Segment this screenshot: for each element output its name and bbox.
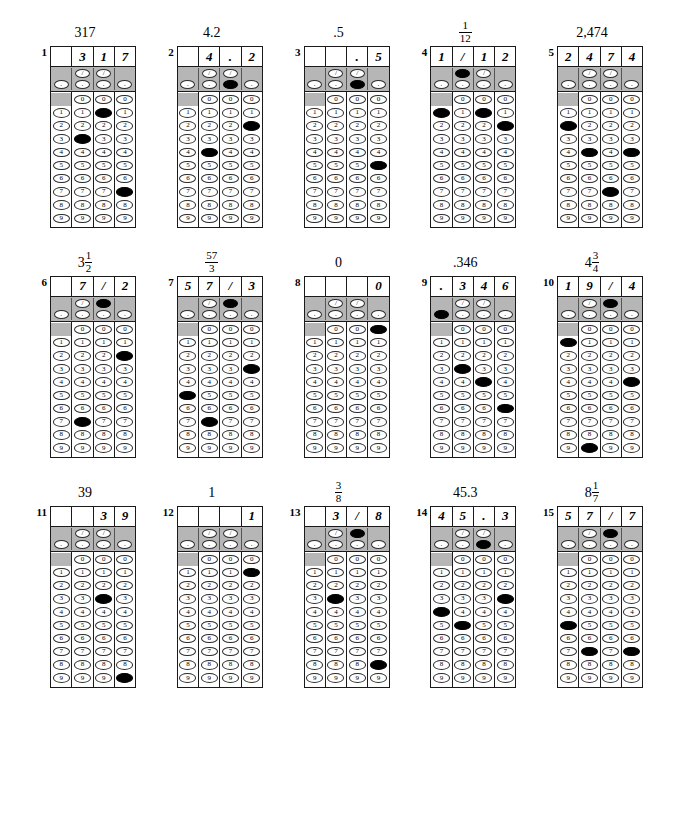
digit-row-8[interactable]: 8 [305,428,325,441]
digit-row-2[interactable]: 2 [94,119,114,132]
slash-bubble-cell-1[interactable] [305,298,325,309]
digit-row-1[interactable]: 1 [199,566,219,579]
slash-bubble-cell-3[interactable]: / [219,68,240,79]
digit-row-7[interactable]: 7 [242,645,262,658]
digit-row-5[interactable]: 5 [579,159,599,172]
digit-row-9[interactable]: 9 [453,442,473,455]
decimal-bubble-cell-4[interactable]: . [494,79,515,90]
slash-bubble-cell-1[interactable] [178,528,198,539]
written-answer-box-1[interactable]: 5 [558,507,578,526]
written-answer-box-4[interactable]: 7 [114,47,135,66]
written-answer-box-4[interactable]: 4 [621,47,642,66]
decimal-bubble-cell-4[interactable]: . [621,309,642,320]
digit-row-5[interactable]: 5 [474,389,494,402]
digit-row-1[interactable]: 1 [178,336,198,349]
digit-row-2[interactable]: 2 [220,349,240,362]
digit-row-8[interactable]: 8 [72,199,92,212]
digit-row-2[interactable]: 2 [453,349,473,362]
digit-row-8[interactable]: 8 [474,199,494,212]
written-answer-box-4[interactable]: 2 [241,47,262,66]
digit-row-9[interactable]: 9 [178,671,198,684]
digit-row-8[interactable]: 8 [220,658,240,671]
digit-row-0[interactable]: 0 [199,93,219,106]
digit-row-6[interactable]: 6 [368,172,388,185]
digit-row-4[interactable]: 4 [347,606,367,619]
digit-row-9[interactable]: 9 [368,442,388,455]
digit-row-7[interactable]: 7 [178,415,198,428]
digit-row-6[interactable]: 6 [72,172,92,185]
decimal-bubble-cell-2[interactable]: . [452,309,473,320]
digit-row-9[interactable]: 9 [242,442,262,455]
digit-row-0[interactable]: 0 [622,93,642,106]
digit-row-9[interactable]: 9 [115,212,135,225]
digit-row-8[interactable]: 8 [368,428,388,441]
written-answer-box-2[interactable] [71,507,92,526]
digit-row-1[interactable]: 1 [453,566,473,579]
digit-row-5[interactable]: 5 [579,619,599,632]
digit-row-6[interactable]: 6 [601,402,621,415]
digit-row-2[interactable]: 2 [326,579,346,592]
digit-row-4[interactable] [622,146,642,159]
digit-row-7[interactable]: 7 [220,415,240,428]
written-answer-box-1[interactable] [305,277,325,296]
digit-row-3[interactable]: 3 [51,592,71,605]
digit-row-6[interactable]: 6 [305,632,325,645]
digit-row-5[interactable] [178,389,198,402]
decimal-bubble-cell-4[interactable]: . [621,79,642,90]
digit-row-6[interactable]: 6 [431,402,451,415]
digit-row-5[interactable]: 5 [220,619,240,632]
digit-row-4[interactable]: 4 [431,146,451,159]
digit-row-5[interactable]: 5 [115,619,135,632]
digit-row-0[interactable]: 0 [220,553,240,566]
digit-row-9[interactable]: 9 [51,212,71,225]
digit-row-2[interactable]: 2 [220,119,240,132]
decimal-bubble-cell-1[interactable]: . [178,79,198,90]
digit-row-0[interactable]: 0 [579,323,599,336]
digit-row-9[interactable]: 9 [558,212,578,225]
digit-row-4[interactable]: 4 [347,376,367,389]
digit-row-6[interactable]: 6 [453,402,473,415]
slash-bubble-cell-1[interactable] [51,528,71,539]
digit-row-5[interactable]: 5 [115,389,135,402]
decimal-bubble-cell-3[interactable] [473,539,494,550]
decimal-bubble-cell-3[interactable]: . [219,309,240,320]
slash-bubble-cell-1[interactable] [558,68,578,79]
digit-row-9[interactable]: 9 [51,442,71,455]
digit-row-6[interactable]: 6 [220,632,240,645]
digit-row-2[interactable]: 2 [220,579,240,592]
digit-row-6[interactable]: 6 [558,632,578,645]
digit-row-7[interactable]: 7 [474,185,494,198]
digit-row-8[interactable]: 8 [453,658,473,671]
digit-row-5[interactable] [453,619,473,632]
digit-row-8[interactable]: 8 [347,428,367,441]
digit-row-1[interactable]: 1 [453,106,473,119]
decimal-bubble-cell-4[interactable]: . [241,309,262,320]
digit-row-7[interactable]: 7 [558,185,578,198]
digit-row-0[interactable]: 0 [199,323,219,336]
written-answer-box-2[interactable]: 4 [198,47,219,66]
digit-row-2[interactable]: 2 [115,119,135,132]
digit-row-4[interactable]: 4 [220,146,240,159]
slash-bubble-cell-4[interactable] [114,298,135,309]
digit-row-3[interactable]: 3 [622,133,642,146]
digit-row-2[interactable]: 2 [199,349,219,362]
digit-row-0[interactable]: 0 [72,323,92,336]
written-answer-box-3[interactable]: 4 [473,277,494,296]
digit-row-6[interactable]: 6 [579,402,599,415]
digit-row-8[interactable]: 8 [579,428,599,441]
written-answer-box-3[interactable] [346,277,367,296]
digit-row-0[interactable]: 0 [115,553,135,566]
digit-row-3[interactable]: 3 [326,133,346,146]
digit-row-3[interactable]: 3 [305,362,325,375]
digit-row-8[interactable]: 8 [495,199,515,212]
slash-bubble-cell-1[interactable] [51,68,71,79]
digit-row-3[interactable]: 3 [305,133,325,146]
digit-row-6[interactable]: 6 [347,632,367,645]
digit-row-2[interactable]: 2 [51,349,71,362]
digit-row-7[interactable]: 7 [94,645,114,658]
digit-row-1[interactable]: 1 [601,336,621,349]
digit-row-5[interactable]: 5 [347,389,367,402]
digit-row-1[interactable]: 1 [178,106,198,119]
decimal-bubble-cell-4[interactable]: . [621,539,642,550]
digit-row-8[interactable]: 8 [453,428,473,441]
